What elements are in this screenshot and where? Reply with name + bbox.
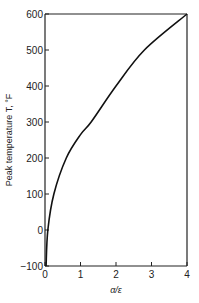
y-tick-label: 500 (26, 45, 43, 56)
plot-frame (45, 14, 187, 266)
y-tick-label: 400 (26, 81, 43, 92)
x-tick-label: 1 (78, 269, 84, 280)
data-curve (46, 14, 187, 266)
x-tick-label: 3 (149, 269, 155, 280)
y-tick-label: −100 (20, 261, 43, 272)
x-tick-label: 0 (42, 269, 48, 280)
x-tick-label: 4 (184, 269, 190, 280)
y-tick-label: 200 (26, 153, 43, 164)
y-tick-label: 100 (26, 189, 43, 200)
x-ticks: 01234 (42, 262, 190, 280)
x-axis-label: α/ε (110, 285, 123, 295)
y-tick-label: 600 (26, 9, 43, 20)
chart: 6005004003002001000−100 01234 α/ε Peak t… (0, 0, 199, 303)
x-tick-label: 2 (113, 269, 119, 280)
y-tick-label: 300 (26, 117, 43, 128)
y-axis-label: Peak temperature T, °F (4, 93, 14, 186)
y-tick-label: 0 (37, 225, 43, 236)
